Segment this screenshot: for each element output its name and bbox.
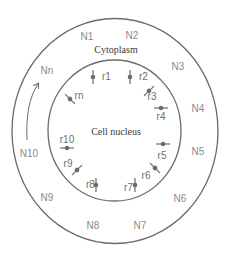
receptor-icon	[91, 70, 96, 84]
receptor-icon	[60, 146, 74, 151]
outer-node-n2: N2	[126, 30, 139, 41]
receptor-label: r3	[148, 91, 157, 102]
receptor-label: r9	[64, 158, 73, 169]
receptor-r6: r6	[142, 161, 162, 181]
receptor-r9: r9	[64, 158, 84, 177]
receptor-r1: r1	[91, 70, 112, 84]
outer-node-n7: N7	[134, 220, 147, 231]
receptor-label: r6	[142, 170, 151, 181]
receptor-r4: r4	[154, 106, 168, 122]
receptor-icon	[156, 142, 170, 147]
receptor-icon	[154, 106, 168, 111]
receptor-label: rn	[75, 90, 84, 101]
receptor-r10: r10	[60, 134, 75, 150]
receptor-label: r5	[158, 150, 167, 161]
outer-node-n9: N9	[41, 192, 54, 203]
receptor-label: r4	[157, 111, 166, 122]
receptor-icon	[133, 178, 138, 192]
receptor-label: r8	[86, 179, 95, 190]
cytoplasm-label: Cytoplasm	[94, 44, 138, 55]
receptor-r3: r3	[142, 84, 156, 102]
outer-node-n4: N4	[192, 103, 205, 114]
outer-node-n8: N8	[87, 220, 100, 231]
receptor-r8: r8	[86, 178, 98, 192]
receptor-label: r10	[60, 134, 75, 145]
receptor-icon	[128, 70, 133, 84]
sequence-arrow-icon	[27, 84, 38, 140]
receptor-r7: r7	[124, 178, 137, 193]
receptor-label: r7	[124, 182, 133, 193]
receptor-label: r1	[102, 71, 111, 82]
receptor-r5: r5	[156, 142, 170, 161]
cell-diagram: Cytoplasm Cell nucleus N1N2N3N4N5N6N7N8N…	[0, 0, 228, 255]
outer-node-n1: N1	[81, 31, 94, 42]
receptor-label: r2	[139, 71, 148, 82]
nucleus-label: Cell nucleus	[91, 126, 141, 137]
receptor-rn: rn	[63, 90, 83, 106]
outer-node-n10: N10	[20, 148, 39, 159]
outer-node-n6: N6	[174, 193, 187, 204]
outer-node-nn: Nn	[41, 65, 54, 76]
receptor-r2: r2	[128, 70, 149, 84]
outer-node-n5: N5	[192, 146, 205, 157]
outer-node-n3: N3	[172, 61, 185, 72]
